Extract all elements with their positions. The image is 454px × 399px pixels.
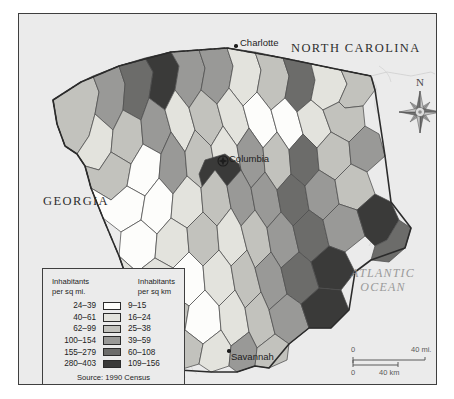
legend-swatch — [103, 360, 121, 369]
legend-row: 40–61 16–24 — [52, 312, 175, 324]
legend-heading-km-line1: Inhabitants — [138, 277, 175, 287]
legend-row: 280–403 109–156 — [52, 358, 175, 370]
scale-miles-end: 40 mi. — [411, 345, 431, 354]
legend-swatch — [103, 325, 121, 334]
compass-north-label: N — [397, 76, 437, 88]
legend-range-miles: 24–39 — [52, 301, 96, 310]
legend-range-miles: 40–61 — [52, 313, 96, 322]
legend-swatch — [103, 313, 121, 322]
legend-range-km: 16–24 — [128, 313, 175, 322]
legend-range-km: 9–15 — [128, 301, 175, 310]
city-dot-charlotte — [234, 44, 238, 48]
legend-headings: Inhabitants per sq mi. Inhabitants per s… — [43, 269, 184, 299]
scale-bar: 0 40 mi. 0 40 km — [351, 345, 437, 379]
legend-heading-miles-line1: Inhabitants — [52, 277, 89, 287]
legend-row: 100–154 39–59 — [52, 335, 175, 347]
city-dot-savannah — [227, 349, 231, 353]
map-panel: NORTH CAROLINA GEORGIA ATLANTIC OCEAN Ch… — [18, 13, 437, 385]
legend-range-miles: 62–99 — [52, 324, 96, 333]
compass-rose: N — [397, 76, 437, 134]
scale-km-start: 0 — [351, 368, 355, 377]
legend-swatch — [103, 302, 121, 311]
legend-range-km: 109–156 — [128, 359, 175, 368]
scale-km-end: 40 km — [379, 368, 399, 377]
scale-miles-start: 0 — [351, 345, 355, 354]
legend-heading-miles: Inhabitants per sq mi. — [52, 277, 89, 296]
legend-range-miles: 280–403 — [52, 359, 96, 368]
compass-rose-icon — [397, 89, 437, 135]
capital-star-icon-columbia — [217, 155, 229, 167]
legend-row: 62–99 25–38 — [52, 323, 175, 335]
map-figure: NORTH CAROLINA GEORGIA ATLANTIC OCEAN Ch… — [0, 0, 454, 399]
legend-range-miles: 155–279 — [52, 348, 96, 357]
legend-swatch — [103, 348, 121, 357]
legend-range-km: 25–38 — [128, 324, 175, 333]
legend-range-km: 60–108 — [128, 348, 175, 357]
legend-range-km: 39–59 — [128, 336, 175, 345]
legend-row: 155–279 60–108 — [52, 346, 175, 358]
legend-row: 24–39 9–15 — [52, 300, 175, 312]
legend-source: Source: 1990 Census — [43, 373, 184, 382]
legend-heading-km-line2: per sq km — [138, 287, 175, 297]
legend-range-miles: 100–154 — [52, 336, 96, 345]
legend-swatch — [103, 336, 121, 345]
map-legend: Inhabitants per sq mi. Inhabitants per s… — [42, 268, 185, 385]
legend-rows: 24–39 9–15 40–61 16–24 62–99 25–38 100–1… — [43, 299, 184, 370]
legend-heading-miles-line2: per sq mi. — [52, 287, 89, 297]
legend-heading-km: Inhabitants per sq km — [138, 277, 175, 296]
